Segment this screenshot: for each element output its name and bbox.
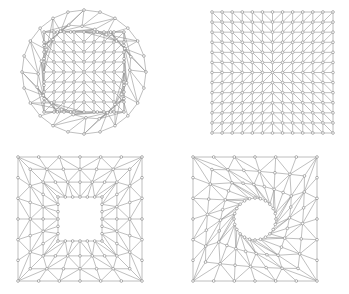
panel-circular-disk-mesh [0,0,175,147]
mesh-edges [193,157,317,281]
panel-square-with-square-hole-mesh [0,147,175,294]
square-with-square-hole-mesh-canvas [0,147,175,294]
panel-square-criss-cross-mesh [175,0,349,147]
panel-square-with-circular-hole-mesh [175,147,349,294]
square-with-circular-hole-mesh-canvas [175,147,349,294]
mesh-figure [0,0,349,294]
mesh-nodes [21,9,148,136]
square-criss-cross-mesh-canvas [175,0,349,147]
circular-disk-mesh-canvas [0,0,175,147]
mesh-edges [18,157,142,281]
mesh-nodes [192,156,319,283]
